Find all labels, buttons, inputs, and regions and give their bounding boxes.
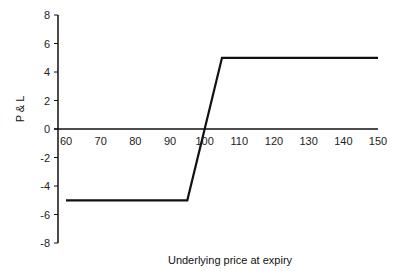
chart: -8-6-4-202468 60708090100110120130140150…	[0, 0, 404, 271]
x-tick-label: 70	[95, 135, 107, 147]
y-tick-label: 8	[44, 9, 50, 21]
y-tick-label: 2	[44, 95, 50, 107]
x-tick-label: 80	[129, 135, 141, 147]
x-tick-label: 140	[334, 135, 352, 147]
y-tick-label: -4	[40, 180, 50, 192]
y-tick-label: 0	[44, 123, 50, 135]
y-tick-label: 4	[44, 66, 50, 78]
x-tick-label: 90	[164, 135, 176, 147]
y-tick-label: -6	[40, 209, 50, 221]
y-tick-label: -8	[40, 237, 50, 249]
x-axis-title: Underlying price at expiry	[168, 254, 293, 266]
y-tick-label: 6	[44, 38, 50, 50]
x-tick-label: 120	[265, 135, 283, 147]
x-tick-label: 110	[231, 135, 249, 147]
x-tick-label: 150	[369, 135, 387, 147]
x-tick-label: 100	[195, 135, 213, 147]
y-tick-label: -2	[40, 152, 50, 164]
x-axis-ticks: 60708090100110120130140150	[60, 135, 387, 147]
y-axis-title: P & L	[14, 96, 26, 123]
x-tick-label: 60	[60, 135, 72, 147]
x-tick-label: 130	[299, 135, 317, 147]
